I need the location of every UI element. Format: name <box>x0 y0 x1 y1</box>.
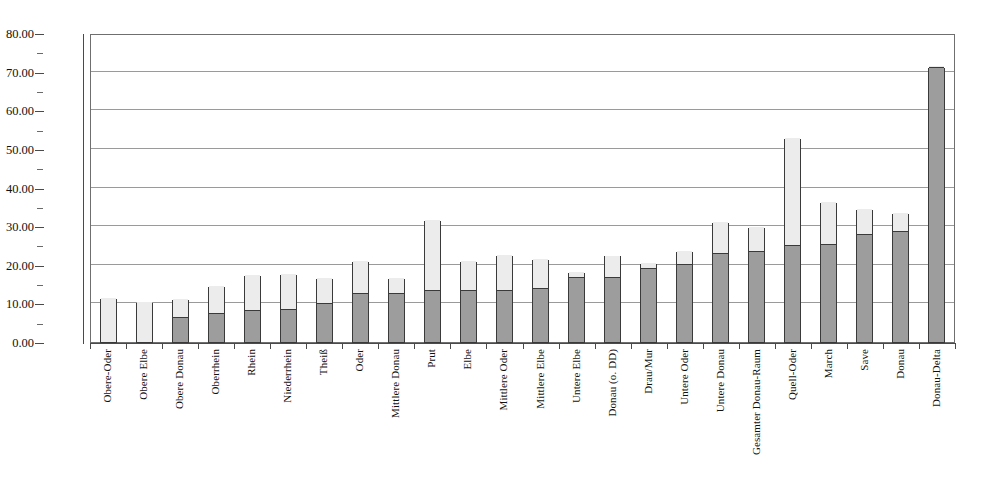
x-tick-mark <box>631 343 632 349</box>
x-tick-mark <box>342 343 343 349</box>
bar-stack[interactable] <box>640 264 657 343</box>
bar-segment-lower <box>353 294 368 342</box>
bar-stack[interactable] <box>424 221 441 343</box>
bar-segment-lower <box>569 278 584 342</box>
bar-stack[interactable] <box>496 256 513 343</box>
bar-stack[interactable] <box>244 276 261 343</box>
y-minor-tick <box>37 131 43 132</box>
y-tick-mark <box>35 304 44 305</box>
x-axis-label: Untere Donau <box>715 349 726 412</box>
y-axis-line <box>83 34 84 344</box>
x-tick-mark <box>486 343 487 349</box>
bar-segment-upper <box>713 222 728 254</box>
bar-segment-lower <box>641 269 656 342</box>
bars-layer <box>90 34 955 343</box>
bar-segment-lower <box>317 304 332 342</box>
bar-segment-lower <box>893 232 908 342</box>
x-tick-mark <box>811 343 812 349</box>
bar-stack[interactable] <box>316 279 333 343</box>
x-tick-mark <box>595 343 596 349</box>
x-tick-mark <box>378 343 379 349</box>
y-tick-mark <box>35 227 44 228</box>
bar-stack[interactable] <box>820 203 837 343</box>
x-axis-label: Rhein <box>246 349 257 376</box>
bar-slot <box>460 34 477 343</box>
y-minor-tick <box>37 92 43 93</box>
x-tick-mark <box>955 343 956 349</box>
x-tick-mark <box>450 343 451 349</box>
bar-stack[interactable] <box>928 68 945 343</box>
bar-stack[interactable] <box>784 139 801 343</box>
bar-segment-lower <box>605 278 620 342</box>
bar-slot <box>136 34 153 343</box>
x-tick-mark <box>739 343 740 349</box>
x-axis-label: Donau (o. DD) <box>607 349 618 417</box>
bar-segment-upper <box>677 251 692 265</box>
bar-segment-lower <box>677 265 692 342</box>
bar-stack[interactable] <box>676 252 693 343</box>
y-tick-label: 80.00 <box>6 28 34 41</box>
x-tick-mark <box>126 343 127 349</box>
bar-segment-lower <box>461 291 476 342</box>
bar-slot <box>640 34 657 343</box>
bar-slot <box>820 34 837 343</box>
bar-slot <box>748 34 765 343</box>
bar-segment-lower <box>209 314 224 342</box>
x-tick-mark <box>523 343 524 349</box>
bar-segment-upper <box>749 227 764 252</box>
bar-slot <box>316 34 333 343</box>
bar-stack[interactable] <box>856 210 873 343</box>
bar-segment-upper <box>317 278 332 304</box>
x-axis-label: Oberrhein <box>210 349 221 395</box>
bar-segment-upper <box>353 261 368 294</box>
y-axis: 80.0070.0060.0050.0040.0030.0020.0010.00… <box>0 0 90 360</box>
bar-stack[interactable] <box>460 262 477 343</box>
bar-stack[interactable] <box>136 303 153 343</box>
bar-segment-lower <box>497 291 512 342</box>
bar-segment-upper <box>605 256 620 278</box>
bar-slot <box>388 34 405 343</box>
bar-stack[interactable] <box>568 273 585 343</box>
y-tick-mark <box>35 34 44 35</box>
x-tick-mark <box>667 343 668 349</box>
stacked-bar-chart: 80.0070.0060.0050.0040.0030.0020.0010.00… <box>0 0 988 498</box>
x-axis-label: Theiß <box>318 349 329 375</box>
bar-stack[interactable] <box>172 300 189 343</box>
x-axis-label: Mittlere Oder <box>498 349 509 410</box>
y-tick-mark <box>35 111 44 112</box>
bar-stack[interactable] <box>604 256 621 343</box>
x-axis-label: March <box>823 349 834 378</box>
x-tick-mark <box>847 343 848 349</box>
bar-stack[interactable] <box>388 279 405 343</box>
x-axis-label: Elbe <box>462 349 473 370</box>
x-axis-label: Obere Elbe <box>138 349 149 400</box>
y-minor-tick <box>37 285 43 286</box>
bar-stack[interactable] <box>748 228 765 343</box>
bar-slot <box>856 34 873 343</box>
bar-segment-lower <box>713 254 728 342</box>
bar-segment-upper <box>389 278 404 294</box>
bar-stack[interactable] <box>280 275 297 343</box>
bar-stack[interactable] <box>352 262 369 343</box>
x-axis-label: Quell-Oder <box>787 349 798 400</box>
bar-stack[interactable] <box>712 223 729 344</box>
bar-segment-lower <box>929 68 944 342</box>
x-tick-mark <box>703 343 704 349</box>
bar-segment-upper <box>857 209 872 235</box>
bar-segment-lower <box>389 294 404 342</box>
x-tick-mark <box>270 343 271 349</box>
bar-stack[interactable] <box>100 299 117 343</box>
bar-stack[interactable] <box>532 260 549 343</box>
bar-segment-upper <box>173 299 188 318</box>
x-tick-mark <box>559 343 560 349</box>
bar-stack[interactable] <box>892 214 909 343</box>
y-minor-tick <box>37 53 43 54</box>
bar-segment-upper <box>893 213 908 232</box>
x-tick-mark <box>90 343 91 349</box>
y-minor-tick <box>37 324 43 325</box>
bar-slot <box>604 34 621 343</box>
bar-slot <box>496 34 513 343</box>
bar-stack[interactable] <box>208 287 225 343</box>
bar-segment-upper <box>101 298 116 342</box>
x-axis-label: Prut <box>426 349 437 368</box>
